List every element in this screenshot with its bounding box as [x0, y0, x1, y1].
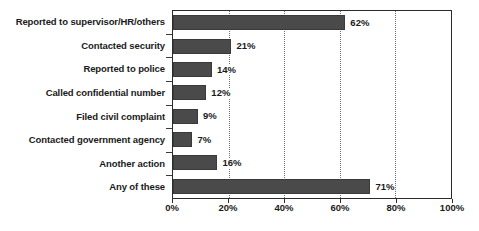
bar: [173, 179, 370, 194]
bar-value-label: 7%: [196, 135, 212, 145]
x-axis-tick-label: 100%: [440, 203, 464, 213]
bar-row: 7%: [173, 128, 451, 151]
category-label-cell: Any of these: [0, 175, 170, 199]
bar-row: 12%: [173, 81, 451, 104]
category-label: Reported to supervisor/HR/others: [16, 17, 165, 27]
bar: [173, 62, 212, 77]
x-axis-labels: 0%20%40%60%80%100%: [172, 203, 452, 219]
x-axis-tick-label: 80%: [386, 203, 405, 213]
x-axis-tick-label: 20%: [218, 203, 237, 213]
bar-row: 16%: [173, 151, 451, 174]
category-label: Reported to police: [83, 64, 165, 74]
category-label: Any of these: [109, 182, 165, 192]
category-label-cell: Reported to supervisor/HR/others: [0, 10, 170, 34]
bar-row: 14%: [173, 58, 451, 81]
category-label-cell: Reported to police: [0, 57, 170, 81]
bar-value-label: 9%: [202, 111, 218, 121]
category-label-cell: Contacted security: [0, 34, 170, 58]
category-axis: Reported to supervisor/HR/othersContacte…: [0, 10, 170, 199]
bar-value-label: 71%: [374, 182, 395, 192]
bar: [173, 15, 345, 30]
plot-area: 62%21%14%12%9%7%16%71%: [172, 10, 452, 199]
bar: [173, 85, 206, 100]
category-label: Another action: [99, 159, 165, 169]
category-label-cell: Contacted government agency: [0, 128, 170, 152]
bar-value-label: 21%: [235, 41, 256, 51]
bar-value-label: 12%: [210, 88, 231, 98]
category-label: Contacted security: [81, 41, 165, 51]
bar-row: 21%: [173, 34, 451, 57]
x-axis-tick-label: 0%: [165, 203, 179, 213]
horizontal-bar-chart: Reported to supervisor/HR/othersContacte…: [0, 0, 479, 231]
bars-layer: 62%21%14%12%9%7%16%71%: [173, 11, 451, 198]
category-label: Called confidential number: [46, 88, 165, 98]
bar-row: 71%: [173, 175, 451, 198]
category-label-cell: Called confidential number: [0, 81, 170, 105]
category-label-cell: Another action: [0, 152, 170, 176]
x-axis-tick-label: 60%: [330, 203, 349, 213]
bar-row: 62%: [173, 11, 451, 34]
bar-value-label: 16%: [221, 158, 242, 168]
bar-value-label: 14%: [216, 65, 237, 75]
category-label: Filed civil complaint: [76, 112, 165, 122]
bar-row: 9%: [173, 105, 451, 128]
bar: [173, 132, 192, 147]
bar-value-label: 62%: [349, 18, 370, 28]
bar: [173, 109, 198, 124]
category-label: Contacted government agency: [29, 135, 165, 145]
bar: [173, 155, 217, 170]
bar: [173, 39, 231, 54]
category-label-cell: Filed civil complaint: [0, 105, 170, 129]
x-axis-tick-label: 40%: [274, 203, 293, 213]
